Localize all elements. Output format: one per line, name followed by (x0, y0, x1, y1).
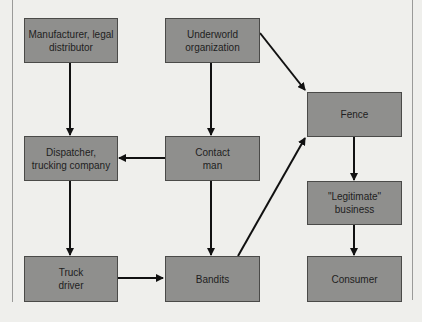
node-legitimate-business: "Legitimate" business (307, 181, 402, 225)
node-manufacturer: Manufacturer, legal distributor (24, 18, 118, 63)
arrow-underworld-to-fence (260, 33, 305, 90)
node-truck-driver: Truck driver (24, 256, 118, 302)
node-underworld-organization: Underworld organization (165, 18, 260, 63)
node-consumer: Consumer (307, 256, 402, 302)
node-bandits: Bandits (165, 256, 260, 302)
node-contact-man: Contact man (165, 136, 260, 181)
node-fence: Fence (307, 92, 402, 137)
node-dispatcher: Dispatcher, trucking company (24, 136, 118, 181)
